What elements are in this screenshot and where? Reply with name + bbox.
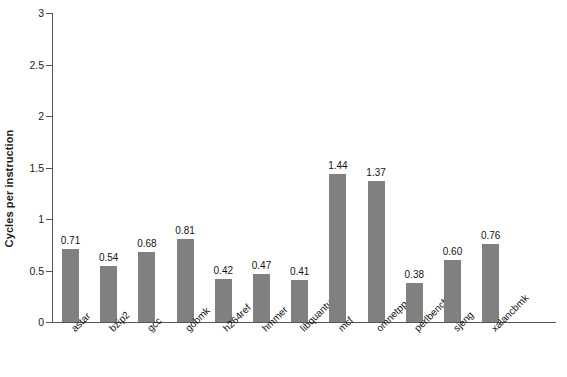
bar-group[interactable]: 0.76 — [482, 13, 499, 322]
y-axis-tick — [46, 65, 53, 66]
bar-group[interactable]: 1.37 — [368, 13, 385, 322]
bar[interactable] — [138, 252, 155, 322]
bar-value-label: 0.76 — [481, 230, 500, 241]
bar-group[interactable]: 0.60 — [444, 13, 461, 322]
bar-value-label: 0.47 — [252, 260, 271, 271]
bar[interactable] — [329, 174, 346, 322]
bar-value-label: 0.38 — [405, 269, 424, 280]
y-axis-tick-label: 0.5 — [0, 266, 44, 276]
bar-value-label: 1.44 — [328, 160, 347, 171]
y-axis-tick-label: 2.5 — [0, 60, 44, 70]
bar[interactable] — [177, 239, 194, 322]
bar[interactable] — [62, 249, 79, 322]
bar-value-label: 0.81 — [175, 225, 194, 236]
y-axis-tick-label: 2 — [0, 111, 44, 121]
y-axis-tick-label: 0 — [0, 317, 44, 327]
bar-group[interactable]: 0.54 — [100, 13, 117, 322]
bar[interactable] — [100, 266, 117, 322]
bar-value-label: 0.60 — [443, 246, 462, 257]
bar-chart-figure: Cycles per instruction 00.511.522.53 0.7… — [0, 0, 567, 377]
y-axis-tick — [46, 219, 53, 220]
bar-value-label: 0.68 — [137, 238, 156, 249]
bar[interactable] — [482, 244, 499, 322]
bar-group[interactable]: 0.41 — [291, 13, 308, 322]
bar-group[interactable]: 1.44 — [329, 13, 346, 322]
bar-group[interactable]: 0.81 — [177, 13, 194, 322]
bar-value-label: 0.71 — [61, 235, 80, 246]
y-axis-tick-label: 1 — [0, 214, 44, 224]
bar[interactable] — [291, 280, 308, 322]
y-axis-tick-label: 3 — [0, 8, 44, 18]
y-axis-tick — [46, 271, 53, 272]
bar-group[interactable]: 0.47 — [253, 13, 270, 322]
y-axis-tick — [46, 168, 53, 169]
bar-group[interactable]: 0.38 — [406, 13, 423, 322]
y-axis-tick — [46, 322, 53, 323]
bar-value-label: 0.42 — [214, 265, 233, 276]
y-axis-tick — [46, 13, 53, 14]
bar-group[interactable]: 0.42 — [215, 13, 232, 322]
bar-group[interactable]: 0.71 — [62, 13, 79, 322]
bar[interactable] — [253, 274, 270, 322]
bar-value-label: 0.41 — [290, 266, 309, 277]
bar[interactable] — [215, 279, 232, 322]
bar[interactable] — [444, 260, 461, 322]
bar-value-label: 1.37 — [366, 167, 385, 178]
bar-group[interactable]: 0.68 — [138, 13, 155, 322]
bar[interactable] — [368, 181, 385, 322]
y-axis-tick — [46, 116, 53, 117]
bar-value-label: 0.54 — [99, 252, 118, 263]
y-axis-tick-label: 1.5 — [0, 163, 44, 173]
